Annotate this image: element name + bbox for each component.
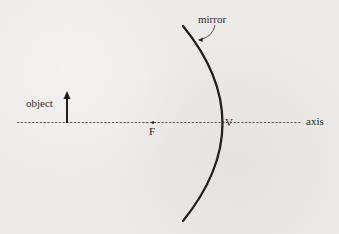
mirror-label: mirror xyxy=(198,14,226,25)
object-label: object xyxy=(26,98,53,109)
mirror-pointer-arrowhead xyxy=(198,38,203,43)
focal-point-dot xyxy=(152,121,155,124)
mirror-curve xyxy=(183,26,223,221)
focal-point-label: F xyxy=(149,126,155,137)
object-arrow-head xyxy=(64,91,71,99)
diagram-canvas: mirror object F V axis xyxy=(0,0,339,234)
axis-label: axis xyxy=(306,116,324,127)
diagram-svg xyxy=(0,0,339,234)
vertex-label: V xyxy=(225,117,233,128)
mirror-pointer-arrow xyxy=(199,25,215,40)
